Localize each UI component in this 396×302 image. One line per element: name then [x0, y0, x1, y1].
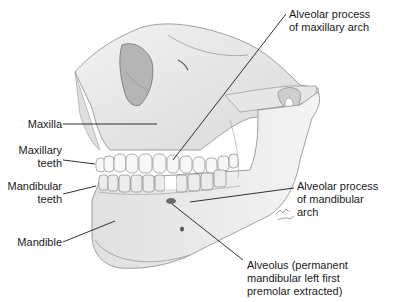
- leader-maxillary-teeth: [63, 160, 95, 164]
- extraction-gap: [165, 176, 176, 189]
- label-alveolus-extracted-premolar: Alveolus (permanent mandibular left firs…: [247, 259, 348, 298]
- alveolus-socket: [166, 198, 176, 204]
- label-maxillary-teeth: Maxillary teeth: [4, 144, 62, 170]
- leader-mandibular-teeth: [63, 186, 96, 194]
- label-alveolar-process-mandibular-arch: Alveolar process of mandibular arch: [297, 180, 378, 219]
- anatomy-diagram: Alveolar process of maxillary arch Maxil…: [0, 0, 396, 302]
- artist-signature-mark: [276, 209, 294, 220]
- label-maxilla: Maxilla: [20, 118, 62, 131]
- label-alveolar-process-maxillary-arch: Alveolar process of maxillary arch: [289, 8, 370, 34]
- label-mandible: Mandible: [6, 236, 62, 249]
- mental-foramen: [180, 227, 184, 232]
- mandibular-teeth-shape: [99, 170, 226, 192]
- label-mandibular-teeth: Mandibular teeth: [0, 180, 62, 206]
